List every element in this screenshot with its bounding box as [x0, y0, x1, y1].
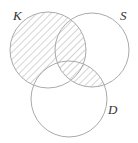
label-k: K	[13, 9, 22, 22]
label-d: D	[108, 103, 117, 116]
label-s: S	[120, 9, 127, 22]
